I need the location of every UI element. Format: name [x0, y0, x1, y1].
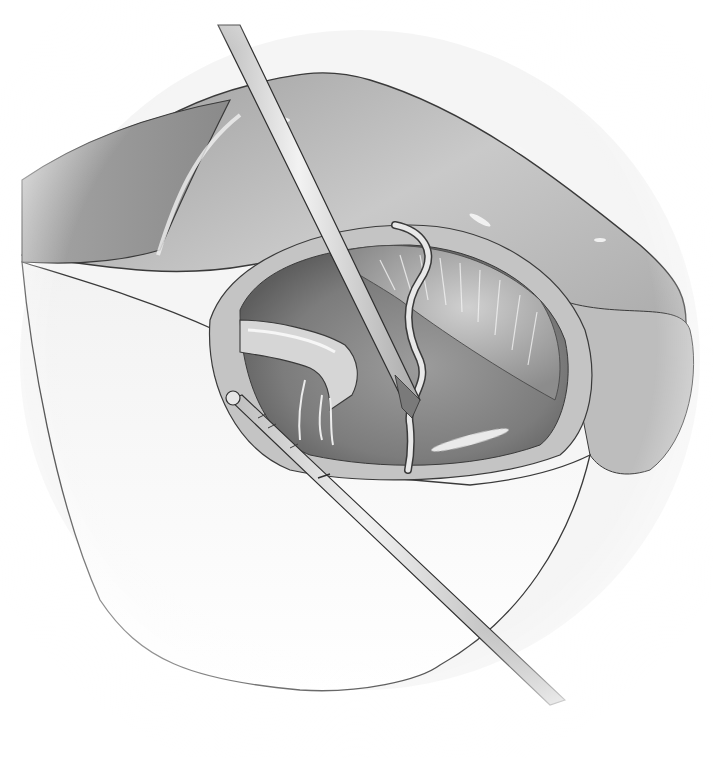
- surgical-illustration: [0, 0, 713, 758]
- vignette-overlay: [0, 0, 713, 758]
- illustration-artwork: [0, 0, 713, 758]
